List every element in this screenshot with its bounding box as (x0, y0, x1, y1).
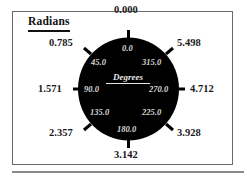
degree-label-bottom-right: 225.0 (142, 107, 161, 117)
radian-label-top: 0.000 (114, 4, 138, 16)
degrees-center-label: Degrees (106, 72, 150, 84)
tick-top-left (84, 48, 91, 54)
radian-label-bottom-left: 2.357 (49, 127, 73, 139)
radian-label-right: 4.712 (190, 83, 214, 95)
radian-label-top-left: 0.785 (49, 37, 73, 49)
radian-label-bottom: 3.142 (114, 149, 138, 161)
degree-label-top: 0.0 (122, 43, 133, 53)
radian-label-top-right: 5.498 (177, 37, 201, 49)
radian-label-bottom-right: 3.928 (177, 127, 201, 139)
degree-label-top-left: 45.0 (91, 57, 106, 67)
tick-bottom-right (166, 124, 173, 130)
degree-label-bottom-left: 135.0 (90, 107, 109, 117)
tick-top-right (166, 48, 173, 54)
degree-label-bottom: 180.0 (117, 124, 136, 134)
degree-label-right: 270.0 (149, 84, 168, 94)
degree-label-left: 90.0 (84, 84, 99, 94)
radian-label-left: 1.571 (38, 83, 62, 95)
separator-line (12, 171, 244, 173)
tick-bottom-left (84, 124, 91, 130)
degree-label-top-right: 315.0 (142, 57, 161, 67)
